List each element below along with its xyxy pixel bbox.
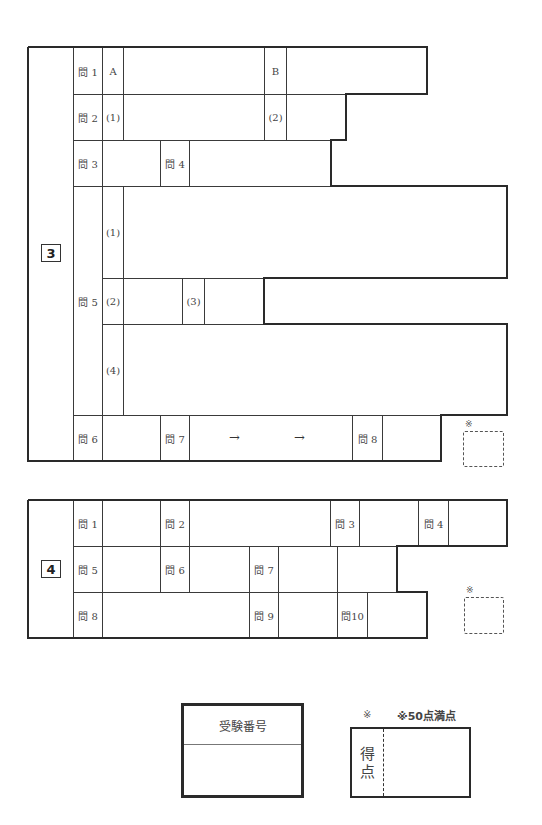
s4-q2-label: 問 2 (160, 500, 190, 547)
s4-q4-label: 問 4 (418, 500, 449, 547)
s4-q1-label: 問 1 (73, 500, 103, 547)
s3-q7-arrow-2: → (294, 430, 305, 445)
score-mark: ※ (363, 709, 371, 720)
s3-q1-b-label: B (264, 47, 287, 95)
s3-q7-label: 問 7 (160, 415, 190, 462)
s3-q3-label: 問 3 (73, 140, 103, 187)
s3-q7-answer[interactable] (189, 415, 353, 462)
section-3-number: 3 (41, 244, 61, 262)
s3-q7-arrow-1: → (229, 430, 240, 445)
s4-score-note-mark: ※ (466, 585, 474, 595)
s3-q5-sub1-label: (1) (102, 186, 124, 279)
score-label: 得 点 (352, 729, 384, 796)
s4-q5-answer[interactable] (102, 546, 161, 593)
s4-q7-answer-2[interactable] (337, 546, 398, 593)
s4-q5-label: 問 5 (73, 546, 103, 593)
s3-q8-answer[interactable] (382, 415, 442, 462)
s3-q5-sub2-label: (2) (102, 278, 124, 325)
s3-q1-a-label: A (102, 47, 124, 95)
s4-q10-answer[interactable] (367, 592, 428, 639)
s3-q5-sub4-label: (4) (102, 324, 124, 416)
s3-q1-b-answer[interactable] (286, 47, 428, 95)
score-input[interactable] (384, 729, 469, 796)
s3-q8-label: 問 8 (352, 415, 383, 462)
s3-score-box (463, 431, 504, 467)
s4-q6-answer[interactable] (189, 546, 250, 593)
s3-score-note-mark: ※ (465, 419, 473, 429)
s4-q2-answer[interactable] (189, 500, 331, 547)
s3-q6-label: 問 6 (73, 415, 103, 462)
s4-q9-answer[interactable] (278, 592, 338, 639)
s4-q10-label: 問10 (337, 592, 368, 639)
s3-q5-sub1-answer[interactable] (123, 186, 508, 279)
s4-q9-label: 問 9 (249, 592, 279, 639)
section-4-number: 4 (41, 560, 61, 578)
s4-q1-answer[interactable] (102, 500, 161, 547)
s3-q2-label: 問 2 (73, 94, 103, 141)
s3-q1-label: 問 1 (73, 47, 103, 95)
s3-q2-sub1-answer[interactable] (123, 94, 265, 141)
s4-q4-answer[interactable] (448, 500, 507, 547)
exam-number-input[interactable] (184, 745, 301, 795)
score-label-line-1: 得 (360, 745, 375, 763)
s4-q3-label: 問 3 (330, 500, 360, 547)
s4-q7-answer-1[interactable] (278, 546, 338, 593)
s3-q5-sub4-answer[interactable] (123, 324, 508, 416)
score-label-line-2: 点 (360, 763, 375, 781)
s3-q5-sub3-answer[interactable] (204, 278, 265, 325)
s3-q5-sub2-answer[interactable] (123, 278, 183, 325)
s4-q7-label: 問 7 (249, 546, 279, 593)
s3-q5-label: 問 5 (73, 186, 103, 416)
s3-q2-sub2-label: (2) (264, 94, 287, 141)
s4-score-box (464, 597, 504, 634)
s4-q6-label: 問 6 (160, 546, 190, 593)
score-box: 得 点 (350, 727, 471, 798)
s3-q4-answer[interactable] (189, 140, 332, 187)
s3-q3-answer[interactable] (102, 140, 161, 187)
exam-number-box: 受験番号 (181, 703, 304, 798)
s3-q4-label: 問 4 (160, 140, 190, 187)
exam-number-label: 受験番号 (184, 706, 301, 745)
s4-q8-answer[interactable] (102, 592, 250, 639)
s3-q1-a-answer[interactable] (123, 47, 265, 95)
s3-q5-sub3-label: (3) (182, 278, 205, 325)
full-score-note: ※50点満点 (397, 707, 456, 723)
s3-q2-sub1-label: (1) (102, 94, 124, 141)
s3-q6-answer[interactable] (102, 415, 161, 462)
s3-q2-sub2-answer[interactable] (286, 94, 347, 141)
s4-q3-answer[interactable] (359, 500, 419, 547)
s4-q8-label: 問 8 (73, 592, 103, 639)
